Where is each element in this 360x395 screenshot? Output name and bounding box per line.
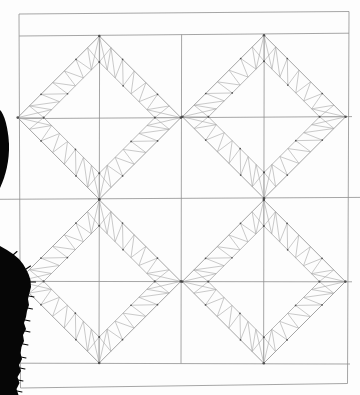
quilt-pattern-svg — [0, 0, 360, 395]
junction-dot — [75, 175, 77, 177]
junction-dot — [75, 312, 77, 314]
junction-dot — [263, 171, 265, 173]
junction-dot — [344, 280, 347, 283]
junction-dot — [240, 174, 242, 176]
junction-dot — [181, 280, 184, 283]
junction-dot — [130, 304, 132, 306]
junction-dot — [98, 336, 100, 338]
junction-dot — [287, 84, 289, 86]
junction-dot — [263, 60, 265, 62]
junction-dot — [122, 58, 124, 60]
junction-dot — [263, 34, 266, 37]
junction-dot — [205, 257, 207, 259]
junction-dot — [75, 58, 77, 60]
junction-dot — [40, 304, 42, 306]
junction-dot — [122, 339, 124, 341]
junction-dot — [67, 257, 69, 259]
junction-dot — [122, 175, 124, 177]
photographed-quilt-diagram — [0, 0, 360, 395]
junction-dot — [154, 117, 156, 119]
junction-dot — [157, 304, 159, 306]
junction-dot — [157, 140, 159, 142]
junction-dot — [207, 281, 209, 283]
junction-dot — [181, 116, 184, 119]
junction-dot — [98, 225, 100, 227]
junction-dot — [321, 93, 323, 95]
junction-dot — [263, 362, 266, 365]
junction-dot — [295, 305, 297, 307]
junction-dot — [286, 339, 288, 341]
junction-dot — [157, 257, 159, 259]
junction-dot — [130, 141, 132, 143]
junction-dot — [75, 339, 77, 341]
junction-dot — [157, 93, 159, 95]
junction-dot — [295, 140, 297, 142]
junction-dot — [321, 257, 323, 259]
junction-dot — [286, 174, 288, 176]
junction-dot — [98, 199, 101, 202]
junction-dot — [239, 148, 241, 150]
junction-dot — [40, 257, 42, 259]
junction-dot — [240, 58, 242, 60]
junction-dot — [98, 172, 100, 174]
junction-dot — [43, 117, 45, 119]
junction-dot — [231, 257, 233, 259]
junction-dot — [287, 249, 289, 251]
junction-dot — [321, 139, 323, 141]
junction-dot — [344, 116, 347, 119]
junction-dot — [75, 149, 77, 151]
junction-dot — [319, 116, 321, 118]
junction-dot — [318, 281, 320, 283]
junction-dot — [240, 222, 242, 224]
junction-dot — [205, 93, 207, 95]
junction-dot — [207, 116, 209, 118]
junction-dot — [98, 61, 100, 63]
junction-dot — [67, 93, 69, 95]
junction-dot — [122, 85, 124, 87]
junction-dot — [122, 249, 124, 251]
junction-dot — [239, 313, 241, 315]
junction-dot — [263, 199, 266, 202]
junction-dot — [40, 93, 42, 95]
junction-dot — [75, 222, 77, 224]
junction-dot — [205, 304, 207, 306]
junction-dot — [321, 304, 323, 306]
junction-dot — [263, 225, 265, 227]
junction-dot — [240, 339, 242, 341]
junction-dot — [263, 336, 265, 338]
junction-dot — [154, 280, 156, 282]
junction-dot — [16, 116, 19, 119]
junction-dot — [231, 92, 233, 94]
junction-dot — [98, 35, 101, 38]
junction-dot — [40, 140, 42, 142]
junction-dot — [205, 139, 207, 141]
junction-dot — [122, 222, 124, 224]
junction-dot — [286, 58, 288, 60]
junction-dot — [43, 280, 45, 282]
junction-dot — [98, 362, 101, 365]
junction-dot — [286, 222, 288, 224]
